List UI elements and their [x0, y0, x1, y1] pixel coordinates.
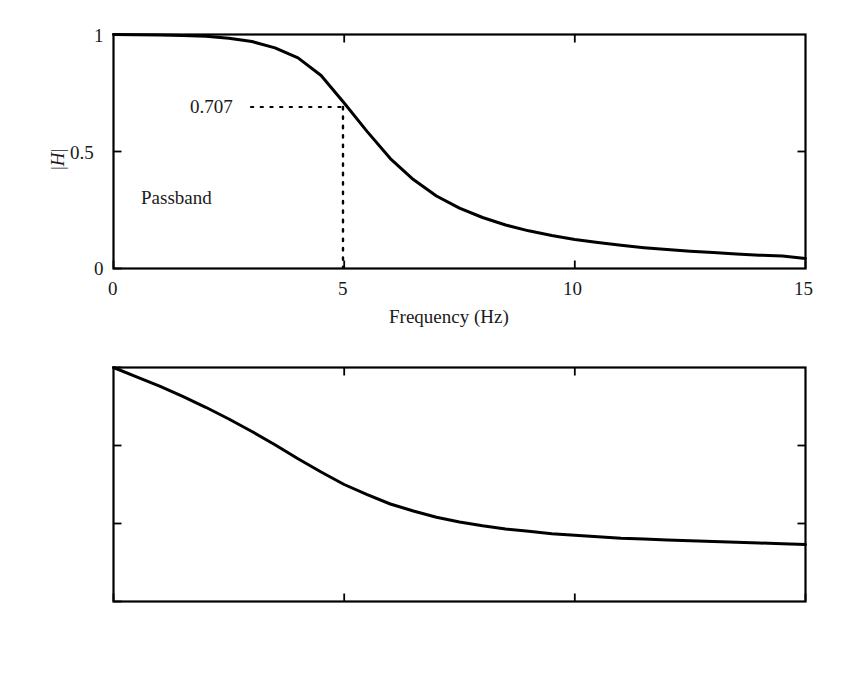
phase-panel: 0 -100 -200 -300 0 5 10 15 Angle(H), deg…	[0, 345, 851, 690]
magnitude-axes-frame	[114, 35, 806, 269]
magnitude-x-ticks	[114, 35, 806, 269]
magnitude-y-axis-label: |H|	[48, 149, 67, 170]
magnitude-y-axis-label-bar-left: |	[47, 166, 68, 170]
magnitude-panel: 1 0.5 0 0 5 10 15 |H| Frequency (Hz) 0.7…	[0, 0, 851, 345]
magnitude-xtick-0: 0	[108, 279, 118, 298]
phase-x-ticks	[114, 368, 806, 602]
magnitude-response-curve	[114, 35, 806, 259]
magnitude-y-axis-label-bar-right: |	[47, 149, 68, 153]
magnitude-x-axis-label: Frequency (Hz)	[389, 307, 509, 326]
phase-axes-frame	[114, 368, 806, 602]
magnitude-xtick-10: 10	[563, 279, 582, 298]
magnitude-ytick-0_5: 0.5	[70, 143, 94, 162]
phase-response-curve	[114, 368, 806, 545]
phase-plot-svg	[0, 345, 851, 690]
magnitude-ytick-0: 0	[94, 259, 104, 278]
figure-container: 1 0.5 0 0 5 10 15 |H| Frequency (Hz) 0.7…	[0, 0, 851, 690]
passband-region-label: Passband	[141, 188, 212, 207]
magnitude-xtick-15: 15	[794, 279, 813, 298]
phase-y-ticks	[114, 368, 806, 602]
magnitude-plot-svg	[0, 0, 851, 345]
magnitude-y-axis-label-h: H	[47, 152, 68, 166]
cutoff-value-label: 0.707	[190, 97, 233, 116]
magnitude-ytick-1: 1	[94, 26, 104, 45]
magnitude-xtick-5: 5	[338, 279, 348, 298]
magnitude-y-ticks	[114, 35, 806, 269]
